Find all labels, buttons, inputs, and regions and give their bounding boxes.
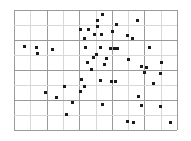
data-point	[99, 46, 102, 49]
gridline-horizontal	[14, 10, 177, 11]
data-point	[105, 57, 108, 60]
data-point	[36, 52, 39, 55]
data-point	[159, 105, 162, 108]
data-point	[71, 101, 74, 104]
data-point	[132, 121, 135, 124]
data-point	[51, 48, 54, 51]
data-point	[79, 28, 82, 31]
gridline-vertical	[177, 10, 178, 130]
data-point	[152, 82, 155, 85]
gridline-horizontal	[14, 100, 177, 101]
data-point	[110, 80, 113, 83]
data-point	[127, 58, 130, 61]
data-point	[140, 104, 143, 107]
data-point	[145, 66, 148, 69]
data-point	[126, 120, 129, 123]
data-point	[44, 91, 47, 94]
data-point	[79, 90, 82, 93]
data-point	[111, 30, 114, 33]
data-point	[136, 19, 139, 22]
data-point	[116, 47, 119, 50]
gridline-horizontal	[14, 40, 177, 41]
data-point	[100, 33, 103, 36]
data-point	[86, 61, 89, 64]
data-point	[137, 95, 140, 98]
data-point	[63, 85, 66, 88]
data-point	[159, 72, 162, 75]
plot-area	[14, 10, 177, 130]
data-point	[96, 19, 99, 22]
data-point	[148, 46, 151, 49]
data-point	[160, 61, 163, 64]
gridline-horizontal	[14, 85, 177, 86]
data-point	[126, 34, 129, 37]
data-point	[169, 121, 172, 124]
scatter-plot-figure	[0, 0, 191, 141]
data-point	[83, 85, 86, 88]
data-point	[80, 78, 83, 81]
data-point	[23, 45, 26, 48]
gridline-horizontal	[14, 130, 177, 131]
gridline-horizontal	[14, 115, 177, 116]
gridline-horizontal	[14, 70, 177, 71]
data-point	[84, 46, 87, 49]
data-point	[114, 80, 117, 83]
data-point	[93, 33, 96, 36]
data-point	[90, 68, 93, 71]
data-point	[92, 56, 95, 59]
data-point	[35, 46, 38, 49]
data-point	[65, 113, 68, 116]
data-point	[87, 28, 90, 31]
data-point	[131, 37, 134, 40]
data-point	[99, 79, 102, 82]
data-point	[101, 103, 104, 106]
data-point	[140, 65, 143, 68]
data-point	[115, 23, 118, 26]
data-point	[143, 71, 146, 74]
data-point	[55, 96, 58, 99]
data-point	[101, 13, 104, 16]
data-point	[103, 63, 106, 66]
data-point	[83, 37, 86, 40]
data-point	[96, 25, 99, 28]
